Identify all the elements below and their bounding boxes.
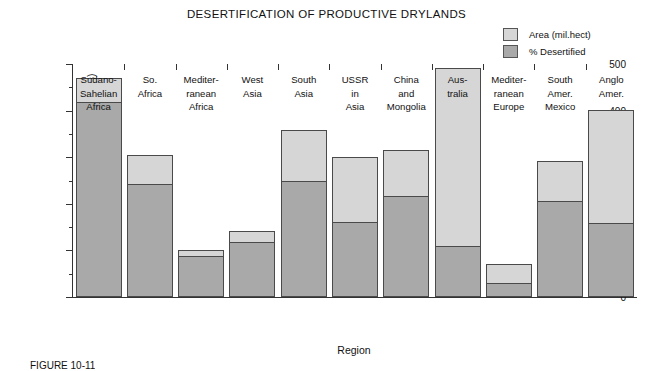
y-tick-major bbox=[66, 157, 73, 158]
bar-10 bbox=[588, 110, 634, 297]
bar-3 bbox=[229, 231, 275, 297]
bar-segment-desertified bbox=[383, 196, 429, 297]
bar-segment-desertified bbox=[178, 256, 224, 297]
y-tick-major bbox=[66, 64, 73, 65]
x-axis-label-1: So.Africa bbox=[124, 73, 175, 100]
legend-swatch-desertified bbox=[503, 45, 518, 58]
bar-6 bbox=[383, 150, 429, 297]
figure-caption: FIGURE 10-11 bbox=[30, 360, 95, 371]
y-tick-minor bbox=[69, 274, 73, 275]
x-axis-label-2: Mediter-raneanAfrica bbox=[176, 73, 227, 114]
bar-7 bbox=[435, 68, 481, 297]
x-axis-label-5: USSRinAsia bbox=[329, 73, 380, 114]
y-tick-major bbox=[66, 204, 73, 205]
bar-8 bbox=[486, 264, 532, 297]
bar-segment-desertified bbox=[435, 246, 481, 297]
x-tick bbox=[432, 64, 433, 70]
x-tick bbox=[278, 64, 279, 70]
x-axis-label-8: Mediter-raneanEurope bbox=[483, 73, 534, 114]
legend-item-desertified: % Desertified bbox=[503, 43, 649, 60]
bar-5 bbox=[332, 157, 378, 297]
plot-area: Area (million hectares) 0100200300400500… bbox=[72, 64, 637, 298]
x-axis-label-6: ChinaandMongolia bbox=[381, 73, 432, 114]
x-tick bbox=[381, 64, 382, 70]
bar-segment-desertified bbox=[76, 102, 122, 297]
x-axis-label-3: WestAsia bbox=[227, 73, 278, 100]
x-tick bbox=[534, 64, 535, 70]
bar-segment-desertified bbox=[537, 201, 583, 297]
page-title: DESERTIFICATION OF PRODUCTIVE DRYLANDS bbox=[0, 8, 653, 20]
x-tick bbox=[329, 64, 330, 70]
legend-item-area: Area (mil.hect) bbox=[503, 26, 649, 43]
y-tick-major bbox=[66, 250, 73, 251]
x-axis-label-4: SouthAsia bbox=[278, 73, 329, 100]
bar-segment-desertified bbox=[229, 242, 275, 297]
x-axis-label-0: Sudano-SahelianAfrica bbox=[73, 73, 124, 114]
x-axis-label-10: AngloAmer. bbox=[586, 73, 637, 100]
y-tick-minor bbox=[69, 227, 73, 228]
x-axis-label-9: SouthAmer.Mexico bbox=[534, 73, 585, 114]
bar-4 bbox=[281, 130, 327, 297]
y-tick-minor bbox=[69, 181, 73, 182]
bar-segment-desertified bbox=[332, 222, 378, 297]
x-tick bbox=[586, 64, 587, 70]
y-tick-major bbox=[66, 111, 73, 112]
bar-segment-desertified bbox=[486, 283, 532, 297]
y-tick-label: 500 bbox=[586, 59, 626, 70]
x-axis-label: Region bbox=[72, 344, 636, 356]
bar-9 bbox=[537, 161, 583, 297]
bar-segment-desertified bbox=[588, 223, 634, 297]
x-tick bbox=[176, 64, 177, 70]
legend-label-desertified: % Desertified bbox=[529, 46, 586, 57]
legend-swatch-area bbox=[503, 28, 518, 41]
x-tick bbox=[483, 64, 484, 70]
bar-1 bbox=[127, 155, 173, 297]
bar-segment-desertified bbox=[127, 184, 173, 297]
y-tick-major bbox=[66, 297, 73, 298]
x-tick bbox=[124, 64, 125, 70]
bar-2 bbox=[178, 250, 224, 297]
bar-segment-desertified bbox=[281, 181, 327, 298]
legend-label-area: Area (mil.hect) bbox=[529, 29, 591, 40]
x-tick bbox=[227, 64, 228, 70]
chart-legend: Area (mil.hect) % Desertified bbox=[503, 26, 649, 60]
y-tick-minor bbox=[69, 134, 73, 135]
x-axis-label-7: Aus-tralia bbox=[432, 73, 483, 100]
